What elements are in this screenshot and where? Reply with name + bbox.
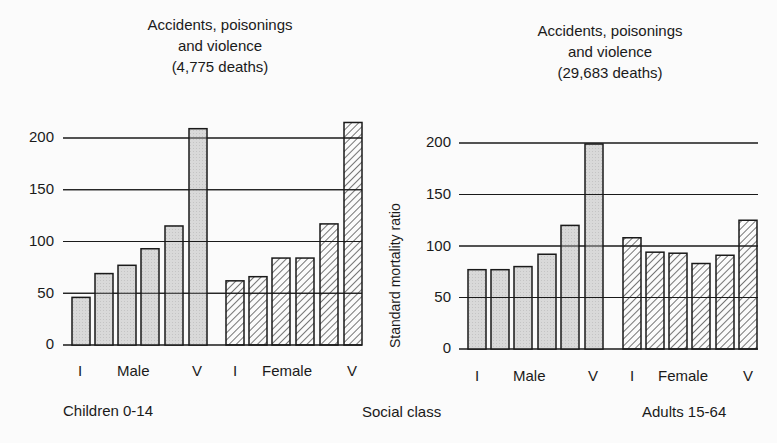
right-ytick-100: 100: [411, 237, 451, 254]
right-ytick-0: 0: [411, 339, 451, 356]
left-x-female-V: V: [347, 362, 357, 379]
right-x-male: Male: [513, 367, 546, 384]
male-bar: [468, 270, 486, 349]
left-ytick-200: 200: [14, 128, 54, 145]
right-x-female-I: I: [630, 367, 634, 384]
male-bar: [118, 265, 136, 345]
male-bar: [141, 249, 159, 345]
female-bar: [739, 220, 757, 349]
left-x-male-I: I: [78, 362, 82, 379]
adults-group-label: Adults 15-64: [642, 403, 726, 420]
male-bar: [95, 274, 113, 345]
male-bar: [189, 129, 207, 345]
female-bar: [296, 258, 314, 345]
female-bar: [272, 258, 290, 345]
social-class-axis-label: Social class: [362, 403, 441, 420]
left-ytick-0: 0: [14, 335, 54, 352]
right-x-female: Female: [658, 367, 708, 384]
right-chart-plot: [459, 143, 758, 349]
female-bar: [320, 224, 338, 345]
left-ytick-50: 50: [14, 284, 54, 301]
female-bar: [623, 238, 641, 349]
female-bar: [646, 252, 664, 349]
male-bar: [561, 225, 579, 349]
children-group-label: Children 0-14: [63, 402, 153, 419]
left-ytick-150: 150: [14, 180, 54, 197]
right-ytick-50: 50: [411, 288, 451, 305]
left-x-female-I: I: [233, 362, 237, 379]
female-bar: [692, 264, 710, 349]
female-bar: [344, 122, 362, 345]
female-bar: [669, 253, 687, 349]
right-ytick-150: 150: [411, 185, 451, 202]
female-bar: [226, 281, 244, 345]
right-ytick-200: 200: [411, 133, 451, 150]
right-x-male-I: I: [475, 367, 479, 384]
right-x-male-V: V: [588, 367, 598, 384]
male-bar: [165, 226, 183, 345]
left-x-male: Male: [117, 362, 150, 379]
left-x-male-V: V: [192, 362, 202, 379]
male-bar: [72, 297, 90, 345]
right-x-female-V: V: [743, 367, 753, 384]
left-x-female: Female: [262, 362, 312, 379]
male-bar: [491, 270, 509, 349]
male-bar: [514, 267, 532, 349]
left-chart-plot: [63, 122, 362, 345]
right-y-axis-label: Standard mortality ratio: [387, 203, 403, 348]
female-bar: [716, 255, 734, 349]
female-bar: [249, 277, 267, 345]
male-bar: [538, 254, 556, 349]
left-ytick-100: 100: [14, 232, 54, 249]
